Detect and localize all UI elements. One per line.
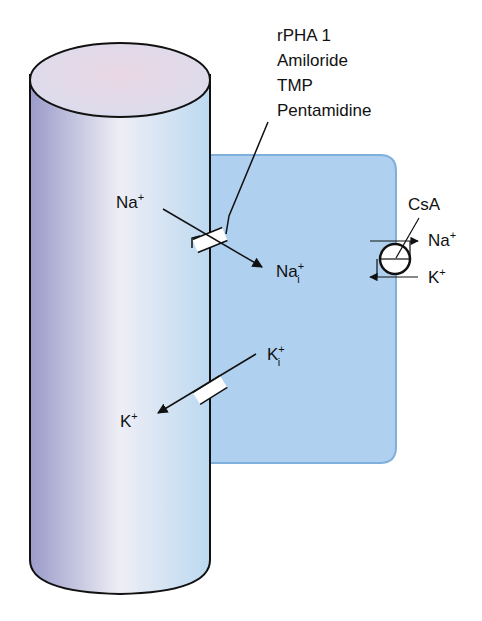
pump-potassium-label: K+ [428,266,446,287]
tubule-top [30,43,210,117]
pump-sodium-label: Na+ [428,229,456,250]
drug-label-rpha1: rPHA 1 [277,26,331,45]
drug-label-pentamidine: Pentamidine [277,101,372,120]
drug-label-tmp: TMP [277,76,313,95]
csa-label: CsA [408,195,441,214]
drug-label-amiloride: Amiloride [277,51,348,70]
diagram-canvas: rPHA 1 Amiloride TMP Pentamidine Na+ Na+… [0,0,482,621]
tubule-lumen [30,75,210,594]
tubular-cell [210,155,396,463]
drug-label-group: rPHA 1 Amiloride TMP Pentamidine [277,26,372,120]
